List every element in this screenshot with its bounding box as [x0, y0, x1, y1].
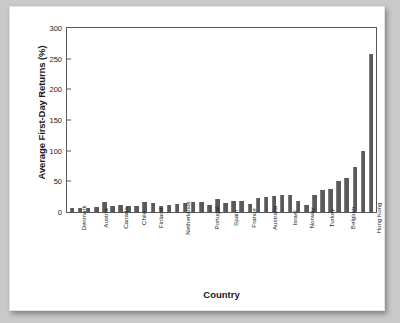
y-tick-mark [67, 120, 71, 121]
bar-cell [116, 28, 124, 212]
bar-cell [335, 28, 343, 212]
bar-cell [181, 28, 189, 212]
x-axis-title: Country [66, 289, 377, 300]
bar-chart-figure: Average First-Day Returns (%) 0501001502… [10, 7, 384, 310]
bar-cell [270, 28, 278, 212]
bar-cell [310, 28, 318, 212]
bar-cell [92, 28, 100, 212]
y-tick-mark [67, 181, 71, 182]
x-label-cell: Denmark [67, 215, 92, 289]
bar-cell [318, 28, 326, 212]
bar-cell [262, 28, 270, 212]
bar-cell [84, 28, 92, 212]
bar-cell [197, 28, 205, 212]
bar-cell [302, 28, 310, 212]
y-tick-label: 150 [49, 116, 67, 125]
bars-container [67, 28, 376, 212]
bar-cell [238, 28, 246, 212]
bar-cell [367, 28, 375, 212]
bar [369, 54, 374, 212]
bar [70, 208, 75, 212]
y-tick-mark [67, 89, 71, 90]
bar-cell [359, 28, 367, 212]
bar-cell [343, 28, 351, 212]
x-axis-labels: DenmarkAustriaCanadaChileFinlandNetherla… [66, 215, 379, 289]
bar-cell [230, 28, 238, 212]
bar-cell [189, 28, 197, 212]
bar-cell [254, 28, 262, 212]
bar-cell [246, 28, 254, 212]
bar-cell [149, 28, 157, 212]
bar-cell [278, 28, 286, 212]
bar-cell [173, 28, 181, 212]
bar [353, 167, 358, 212]
bar-cell [100, 28, 108, 212]
y-tick-label: 100 [49, 146, 67, 155]
bar [361, 151, 366, 212]
bar-cell [205, 28, 213, 212]
bar-cell [108, 28, 116, 212]
bar-cell [351, 28, 359, 212]
y-tick-label: 250 [49, 54, 67, 63]
bar-cell [141, 28, 149, 212]
y-tick-mark [67, 58, 71, 59]
bar-cell [221, 28, 229, 212]
y-tick-mark [67, 150, 71, 151]
plot-area: 050100150200250300 [66, 27, 377, 213]
bar-cell [165, 28, 173, 212]
bar-cell [76, 28, 84, 212]
bar-cell [213, 28, 221, 212]
figure-page: Average First-Day Returns (%) 0501001502… [9, 6, 385, 311]
bar-cell [286, 28, 294, 212]
bar-cell [294, 28, 302, 212]
y-axis-title: Average First-Day Returns (%) [36, 18, 47, 208]
bar-cell [125, 28, 133, 212]
x-tick-label: Hong Kong [376, 203, 400, 234]
y-tick-label: 50 [54, 177, 67, 186]
bar-cell [133, 28, 141, 212]
y-tick-label: 200 [49, 85, 67, 94]
bar-cell [327, 28, 335, 212]
y-tick-label: 300 [49, 24, 67, 33]
bar-cell [157, 28, 165, 212]
